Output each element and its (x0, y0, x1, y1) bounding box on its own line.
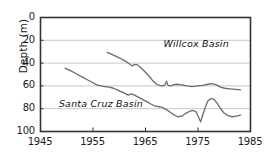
depth-vs-year-chart: Depth (m) 020406080100 19451955196519751… (0, 0, 270, 158)
series-label: Willcox Basin (163, 38, 229, 49)
y-tick-label: 60 (5, 79, 35, 90)
x-tick-label: 1955 (70, 136, 116, 147)
x-tick-label: 1975 (175, 136, 221, 147)
series-line (107, 52, 240, 90)
plot-frame (41, 18, 251, 132)
y-tick-label: 40 (5, 57, 35, 68)
y-tick-label: 20 (5, 34, 35, 45)
y-tick-label: 0 (5, 11, 35, 22)
series-line (65, 68, 240, 122)
x-tick-label: 1965 (122, 136, 168, 147)
y-tick-label: 80 (5, 102, 35, 113)
x-tick-label: 1985 (227, 136, 270, 147)
axis-frame (41, 18, 251, 132)
x-tick-label: 1945 (17, 136, 63, 147)
y-tick-label: 100 (5, 125, 35, 136)
plot-area (0, 0, 270, 158)
series-label: Santa Cruz Basin (59, 98, 143, 109)
